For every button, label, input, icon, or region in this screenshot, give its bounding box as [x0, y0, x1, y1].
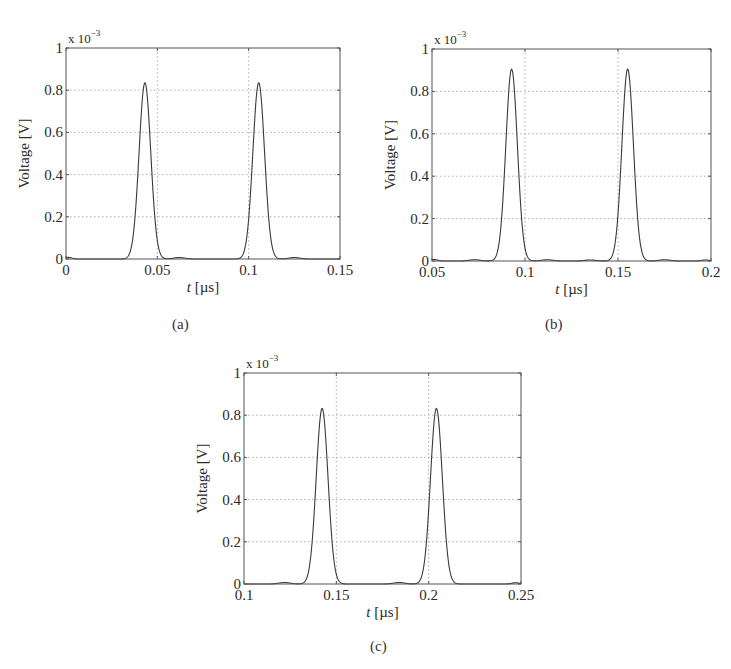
x-tick-label: 0	[62, 262, 70, 278]
x-tick-label: 0.15	[323, 587, 349, 603]
y-tick-label: 0.6	[44, 124, 63, 140]
y-axis-label: Voltage [V]	[16, 118, 32, 188]
y-tick-label: 0	[422, 253, 430, 269]
y-tick-label: 0.8	[222, 407, 241, 423]
y-tick-label: 0.4	[410, 168, 429, 184]
voltage-line	[432, 69, 711, 261]
y-tick-label: 0.6	[410, 126, 429, 142]
grid-lines	[66, 48, 340, 259]
x-tick-label: 0.2	[419, 587, 438, 603]
x-axis-label: t [µs]	[187, 279, 219, 295]
y-axis-label: Voltage [V]	[382, 120, 398, 190]
y-tick-label: 0	[234, 576, 242, 592]
plots-canvas: 00.050.10.1500.20.40.60.81x 10−3t [µs]Vo…	[0, 0, 731, 669]
y-tick-label: 1	[234, 365, 242, 381]
y-tick-label: 1	[422, 41, 430, 57]
voltage-line	[244, 408, 521, 584]
x-tick-label: 0.1	[239, 262, 258, 278]
y-multiplier: x 10−3	[246, 353, 279, 371]
y-tick-label: 0	[56, 251, 64, 267]
y-multiplier: x 10−3	[68, 28, 101, 46]
y-axis-label: Voltage [V]	[194, 443, 210, 513]
y-multiplier: x 10−3	[434, 29, 467, 47]
caption-a: (a)	[172, 316, 189, 333]
y-tick-label: 0.2	[410, 211, 429, 227]
tick-marks	[66, 48, 340, 259]
x-tick-label: 0.1	[516, 264, 535, 280]
panel-b: 0.050.10.150.200.20.40.60.81x 10−3t [µs]…	[382, 29, 720, 297]
y-tick-label: 0.6	[222, 449, 241, 465]
panel-a: 00.050.10.1500.20.40.60.81x 10−3t [µs]Vo…	[16, 28, 353, 295]
tick-marks	[432, 49, 711, 261]
y-tick-label: 0.2	[44, 209, 63, 225]
axes-box	[432, 49, 711, 261]
caption-b: (b)	[545, 316, 563, 333]
axes-box	[66, 48, 340, 259]
x-axis-label: t [µs]	[555, 281, 587, 297]
y-tick-label: 0.4	[44, 167, 63, 183]
y-tick-label: 0.8	[410, 83, 429, 99]
x-tick-label: 0.2	[702, 264, 721, 280]
x-tick-label: 0.05	[144, 262, 170, 278]
y-tick-label: 0.8	[44, 82, 63, 98]
grid-lines	[244, 373, 521, 584]
x-tick-label: 0.15	[605, 264, 631, 280]
voltage-line	[66, 83, 340, 259]
x-axis-label: t [µs]	[366, 604, 398, 620]
y-tick-label: 1	[56, 40, 64, 56]
axes-box	[244, 373, 521, 584]
figure: 00.050.10.1500.20.40.60.81x 10−3t [µs]Vo…	[0, 0, 731, 669]
x-tick-label: 0.25	[508, 587, 534, 603]
x-tick-label: 0.15	[327, 262, 353, 278]
tick-marks	[244, 373, 521, 584]
y-tick-label: 0.4	[222, 492, 241, 508]
caption-c: (c)	[370, 638, 387, 655]
grid-lines	[432, 49, 711, 261]
y-tick-label: 0.2	[222, 534, 241, 550]
panel-c: 0.10.150.20.2500.20.40.60.81x 10−3t [µs]…	[194, 353, 534, 620]
